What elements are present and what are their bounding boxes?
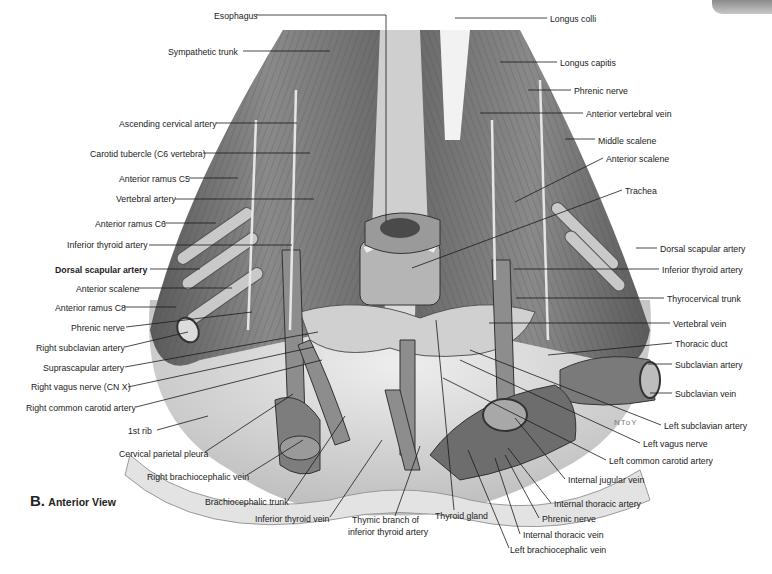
label-vertebral-vein: Vertebral vein <box>673 318 726 329</box>
label-esophagus: Esophagus <box>214 10 258 21</box>
label-anterior-ramus-c6: Anterior ramus C6 <box>95 218 166 229</box>
panel-letter: B. <box>30 492 45 509</box>
label-left-brachiocephalic-vein: Left brachiocephalic vein <box>510 544 606 555</box>
label-inferior-thyroid-artery-right: Inferior thyroid artery <box>67 239 148 250</box>
label-anterior-ramus-c5: Anterior ramus C5 <box>119 173 190 184</box>
label-right-subclavian-artery: Right subclavian artery <box>36 342 125 353</box>
label-subclavian-artery: Subclavian artery <box>675 359 743 370</box>
label-anterior-scalene-left: Anterior scalene <box>606 153 669 164</box>
label-sympathetic-trunk: Sympathetic trunk <box>168 46 238 57</box>
label-1st-rib: 1st rib <box>128 425 152 436</box>
label-thyrocervical-trunk: Thyrocervical trunk <box>667 293 741 304</box>
label-brachiocephalic-trunk: Brachiocephalic trunk <box>205 496 289 507</box>
label-internal-jugular-vein: Internal jugular vein <box>568 474 644 485</box>
label-right-common-carotid-artery: Right common carotid artery <box>26 402 136 413</box>
label-internal-thoracic-vein: Internal thoracic vein <box>523 529 604 540</box>
label-phrenic-nerve-lower: Phrenic nerve <box>542 513 596 524</box>
label-trachea: Trachea <box>625 185 657 196</box>
label-dorsal-scapular-artery-right: Dorsal scapular artery <box>55 264 147 275</box>
artist-signature: NToY <box>614 418 638 427</box>
label-inferior-thyroid-vein: Inferior thyroid vein <box>255 513 329 524</box>
label-thyroid-gland: Thyroid gland <box>435 510 488 521</box>
label-left-vagus-nerve: Left vagus nerve <box>643 438 708 449</box>
label-left-common-carotid-artery: Left common carotid artery <box>609 455 713 466</box>
label-left-subclavian-artery: Left subclavian artery <box>664 420 747 431</box>
figure-caption: B. Anterior View <box>30 492 116 509</box>
label-anterior-ramus-c8: Anterior ramus C8 <box>55 302 126 313</box>
label-dorsal-scapular-artery-left: Dorsal scapular artery <box>660 243 745 254</box>
label-longus-capitis: Longus capitis <box>560 57 616 68</box>
label-carotid-tubercle: Carotid tubercle (C6 vertebra) <box>90 148 206 159</box>
label-anterior-vertebral-vein: Anterior vertebral vein <box>586 108 672 119</box>
label-right-vagus-nerve: Right vagus nerve (CN X) <box>31 381 131 392</box>
label-thymic-branch-line1: Thymic branch of <box>352 514 419 525</box>
view-title: Anterior View <box>48 496 116 508</box>
label-thymic-branch-line2: inferior thyroid artery <box>348 526 428 537</box>
label-thoracic-duct: Thoracic duct <box>675 338 727 349</box>
label-middle-scalene: Middle scalene <box>598 135 656 146</box>
label-suprascapular-artery: Suprascapular artery <box>43 362 124 373</box>
label-cervical-parietal-pleura: Cervical parietal pleura <box>119 448 208 459</box>
label-subclavian-vein: Subclavian vein <box>675 388 736 399</box>
label-ascending-cervical-artery: Ascending cervical artery <box>119 118 217 129</box>
label-anterior-scalene-right: Anterior scalene <box>76 283 139 294</box>
label-inferior-thyroid-artery-left: Inferior thyroid artery <box>662 264 743 275</box>
label-longus-colli: Longus colli <box>550 13 596 24</box>
label-phrenic-nerve-right: Phrenic nerve <box>71 322 125 333</box>
label-right-brachiocephalic-vein: Right brachiocephalic vein <box>147 471 249 482</box>
label-vertebral-artery: Vertebral artery <box>116 193 176 204</box>
label-internal-thoracic-artery: Internal thoracic artery <box>554 498 641 509</box>
label-phrenic-nerve-upper: Phrenic nerve <box>574 85 628 96</box>
